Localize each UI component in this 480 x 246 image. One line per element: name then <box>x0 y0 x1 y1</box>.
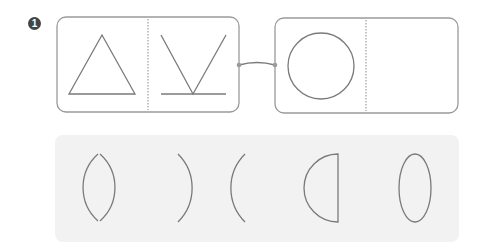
connector-line <box>237 63 278 68</box>
analogy-left-box <box>57 17 239 112</box>
answer-blank-slot[interactable] <box>368 20 456 111</box>
circle-shape <box>288 33 354 99</box>
diagram-canvas <box>0 0 480 246</box>
analogy-right-box <box>275 18 458 113</box>
triangle-shape <box>69 35 135 94</box>
v-with-base-shape <box>161 35 226 94</box>
